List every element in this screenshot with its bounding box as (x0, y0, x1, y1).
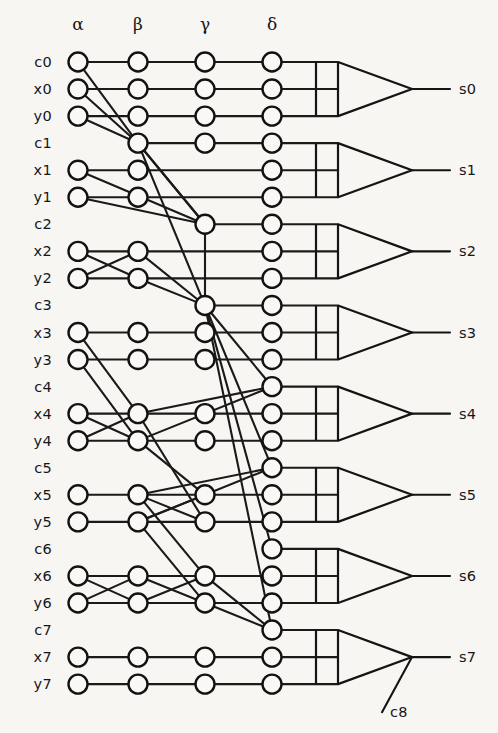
node-x3-beta[interactable] (129, 323, 148, 342)
node-y6-delta[interactable] (263, 594, 282, 613)
node-y5-delta[interactable] (263, 512, 282, 531)
connection-edge (84, 367, 133, 433)
node-c2-delta[interactable] (263, 215, 282, 234)
node-c5-delta[interactable] (263, 458, 282, 477)
node-y0-delta[interactable] (263, 107, 282, 126)
output-label-layer: s0s1s2s3s4s5s6s7c8 (390, 81, 476, 720)
node-y0-alpha[interactable] (69, 107, 88, 126)
node-y1-alpha[interactable] (69, 188, 88, 207)
node-y4-gamma[interactable] (196, 431, 215, 450)
node-x6-delta[interactable] (263, 566, 282, 585)
node-x3-gamma[interactable] (196, 323, 215, 342)
node-c7-delta[interactable] (263, 621, 282, 640)
node-y6-alpha[interactable] (69, 594, 88, 613)
output-label-s7: s7 (459, 649, 476, 665)
node-x7-alpha[interactable] (69, 648, 88, 667)
xor-gate-body (338, 143, 412, 197)
node-x4-beta[interactable] (129, 404, 148, 423)
row-label-y1: y1 (34, 189, 52, 205)
column-header-gamma: γ (200, 14, 210, 34)
node-y0-gamma[interactable] (196, 107, 215, 126)
row-label-y7: y7 (34, 676, 52, 692)
node-c0-gamma[interactable] (196, 53, 215, 72)
node-y2-alpha[interactable] (69, 269, 88, 288)
figure-container: c0x0y0c1x1y1c2x2y2c3x3y3c4x4y4c5x5y5c6x6… (0, 0, 498, 733)
node-x4-alpha[interactable] (69, 404, 88, 423)
node-x1-delta[interactable] (263, 161, 282, 180)
node-x4-gamma[interactable] (196, 404, 215, 423)
node-x5-delta[interactable] (263, 485, 282, 504)
node-y6-gamma[interactable] (196, 594, 215, 613)
node-x7-delta[interactable] (263, 648, 282, 667)
node-y7-beta[interactable] (129, 675, 148, 694)
node-y3-beta[interactable] (129, 350, 148, 369)
node-x6-gamma[interactable] (196, 566, 215, 585)
row-label-c2: c2 (34, 216, 52, 232)
node-x5-beta[interactable] (129, 485, 148, 504)
node-c1-delta[interactable] (263, 134, 282, 153)
node-y3-gamma[interactable] (196, 350, 215, 369)
row-label-c6: c6 (34, 541, 52, 557)
row-label-layer: c0x0y0c1x1y1c2x2y2c3x3y3c4x4y4c5x5y5c6x6… (34, 54, 52, 692)
connection-edge (144, 529, 199, 595)
node-y2-beta[interactable] (129, 269, 148, 288)
node-x0-gamma[interactable] (196, 80, 215, 99)
node-x1-alpha[interactable] (69, 161, 88, 180)
node-x0-beta[interactable] (129, 80, 148, 99)
node-x5-alpha[interactable] (69, 485, 88, 504)
node-y0-beta[interactable] (129, 107, 148, 126)
node-y4-delta[interactable] (263, 431, 282, 450)
column-header-delta: δ (267, 14, 277, 34)
node-x2-beta[interactable] (129, 242, 148, 261)
node-y7-alpha[interactable] (69, 675, 88, 694)
node-x0-delta[interactable] (263, 80, 282, 99)
node-x5-gamma[interactable] (196, 485, 215, 504)
node-y1-beta[interactable] (129, 188, 148, 207)
node-c4-delta[interactable] (263, 377, 282, 396)
node-y6-beta[interactable] (129, 594, 148, 613)
node-y2-delta[interactable] (263, 269, 282, 288)
node-y5-beta[interactable] (129, 512, 148, 531)
node-x3-alpha[interactable] (69, 323, 88, 342)
output-label-s1: s1 (459, 162, 476, 178)
node-x4-delta[interactable] (263, 404, 282, 423)
row-label-c7: c7 (34, 622, 52, 638)
row-label-x6: x6 (34, 568, 52, 584)
node-y1-delta[interactable] (263, 188, 282, 207)
node-c0-alpha[interactable] (69, 53, 88, 72)
node-c2-gamma[interactable] (196, 215, 215, 234)
node-y7-delta[interactable] (263, 675, 282, 694)
node-y5-alpha[interactable] (69, 512, 88, 531)
row-label-y6: y6 (34, 595, 52, 611)
node-c3-gamma[interactable] (196, 296, 215, 315)
node-y5-gamma[interactable] (196, 512, 215, 531)
row-label-x1: x1 (34, 162, 52, 178)
node-y4-beta[interactable] (129, 431, 148, 450)
row-label-x4: x4 (34, 406, 52, 422)
node-c0-beta[interactable] (129, 53, 148, 72)
row-label-y3: y3 (34, 352, 52, 368)
node-c0-delta[interactable] (263, 53, 282, 72)
node-x6-alpha[interactable] (69, 566, 88, 585)
node-x7-gamma[interactable] (196, 648, 215, 667)
node-x3-delta[interactable] (263, 323, 282, 342)
connection-edge (84, 70, 133, 136)
xor-gate-body (338, 305, 412, 359)
node-y3-alpha[interactable] (69, 350, 88, 369)
node-y3-delta[interactable] (263, 350, 282, 369)
node-y7-gamma[interactable] (196, 675, 215, 694)
xor-gate-body (338, 62, 412, 116)
node-x7-beta[interactable] (129, 648, 148, 667)
node-c1-beta[interactable] (129, 134, 148, 153)
node-x6-beta[interactable] (129, 566, 148, 585)
node-x0-alpha[interactable] (69, 80, 88, 99)
node-y4-alpha[interactable] (69, 431, 88, 450)
node-c3-delta[interactable] (263, 296, 282, 315)
output-label-s0: s0 (459, 81, 476, 97)
node-c6-delta[interactable] (263, 539, 282, 558)
output-label-s4: s4 (459, 406, 476, 422)
node-c1-gamma[interactable] (196, 134, 215, 153)
node-x1-beta[interactable] (129, 161, 148, 180)
node-x2-delta[interactable] (263, 242, 282, 261)
node-x2-alpha[interactable] (69, 242, 88, 261)
